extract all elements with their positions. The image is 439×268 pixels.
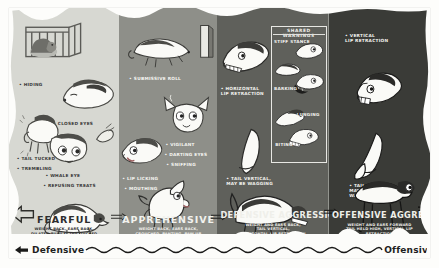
illustration-whale-eye	[44, 128, 93, 173]
torn-edge-top	[9, 8, 430, 15]
poster-root: • HIDING • CLOSED EYES	[0, 0, 439, 268]
panel-fearful: • HIDING • CLOSED EYES	[9, 8, 119, 258]
illustration-vertical-lip-retraction	[351, 66, 402, 116]
label-block-defensive: DEFENSIVE AGGRESSION WEIGHT AND EARS BAC…	[217, 210, 329, 236]
illustration-refused-treat	[93, 121, 115, 149]
warning-label-stiff-stance: STIFF STANCE	[274, 39, 310, 44]
footer-label-defensive: Defensive	[32, 245, 84, 255]
spectrum-footer: Defensive Offensive	[9, 242, 430, 258]
warning-label-barking: BARKING	[274, 86, 297, 91]
left-arrow-icon	[15, 245, 28, 255]
annotation-darting-eyes: • DARTING EYES	[164, 152, 207, 157]
illustration-doorway	[198, 21, 216, 64]
illustration-vigilant-head	[159, 91, 214, 141]
illustration-barking	[292, 67, 324, 102]
annotation-submissive-roll: • SUBMISSIVE ROLL	[129, 76, 181, 81]
shared-warnings-box: SHARED WARNINGS STIFF STANCE	[271, 26, 327, 164]
annotation-sniffing: • SNIFFING	[166, 162, 196, 167]
illustration-lip-licking	[120, 128, 163, 173]
panel-row: • HIDING • CLOSED EYES	[9, 8, 430, 258]
shared-warnings-divider	[273, 34, 325, 35]
panel-apprehensive: • SUBMISSIVE ROLL • VIGILANT • DARTING E…	[119, 8, 217, 258]
illustration-biting	[287, 121, 320, 156]
torn-edge-left	[9, 8, 15, 258]
label-block-fearful: FEARFUL WEIGHT BACK, EARS BACK, DILATED …	[9, 214, 119, 236]
annotation-vertical-lip-retraction: • VERTICAL LIP RETRACTION	[345, 33, 388, 43]
illustration-submissive-roll	[127, 28, 198, 73]
illustration-hiding-crate	[22, 21, 90, 79]
panel-defensive-aggression: • HORIZONTAL LIP RETRACTION • TAIL VERTI…	[217, 8, 329, 258]
panel-offensive-aggression: • VERTICAL LIP RETRACTION	[329, 8, 430, 258]
illustration-closed-eyes	[58, 73, 115, 116]
annotation-whale-eye: • WHALE EYE	[45, 173, 80, 178]
torn-edge-right	[424, 8, 430, 258]
annotation-hiding: • HIDING	[19, 82, 43, 87]
label-block-apprehensive: APPREHENSIVE WEIGHT BACK, EARS BACK, CRO…	[119, 214, 217, 236]
warning-label-lunging: LUNGING	[297, 112, 320, 117]
poster-sheet: • HIDING • CLOSED EYES	[9, 8, 430, 258]
warning-label-biting: BITING	[275, 142, 293, 147]
illustration-horizontal-lip-retraction	[220, 33, 271, 81]
mood-name-defensive: DEFENSIVE AGGRESSION	[220, 210, 326, 221]
illustration-tail-vertical	[227, 123, 267, 178]
mood-name-fearful: FEARFUL	[12, 214, 116, 225]
mood-name-offensive: OFFENSIVE AGGRESSION	[332, 210, 427, 221]
mood-name-apprehensive: APPREHENSIVE	[122, 214, 214, 225]
spectrum-wave	[84, 245, 384, 255]
annotation-vigilant: • VIGILANT	[165, 142, 194, 147]
annotation-horizontal-lip-retraction: • HORIZONTAL LIP RETRACTION	[221, 86, 264, 96]
